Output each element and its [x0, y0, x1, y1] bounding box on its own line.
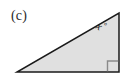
triangle-diagram	[0, 0, 129, 80]
figure-canvas: (c) x°	[0, 0, 129, 80]
